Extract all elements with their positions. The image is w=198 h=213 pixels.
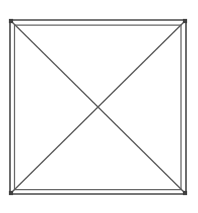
corner-marker-bottom-left: [9, 191, 13, 195]
corner-marker-top-right: [183, 19, 187, 23]
corner-marker-top-left: [9, 19, 13, 23]
figure-canvas: [0, 0, 198, 213]
corner-marker-bottom-right: [183, 191, 187, 195]
square-with-diagonals-drawing: [0, 0, 198, 213]
